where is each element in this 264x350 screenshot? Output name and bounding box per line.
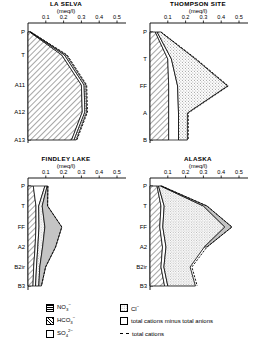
y-tick-label: B3 <box>18 283 26 289</box>
y-tick-label: A2 <box>18 244 26 250</box>
y-tick-label: T <box>143 56 147 62</box>
soil-solution-anion-figure: LA SELVA (meq/l) <box>0 0 264 350</box>
y-tick-label: A13 <box>14 137 25 143</box>
dashed-line-swatch-icon <box>120 333 129 334</box>
panel-units-alaska: (meq/l) <box>132 163 264 170</box>
y-tick-label: B3 <box>140 283 148 289</box>
legend-label-so4: SO42− <box>57 327 73 340</box>
legend-item-so4: SO42− <box>46 329 75 338</box>
legend-label-balance: total cations minus total anions <box>131 317 213 325</box>
legend-label-hco3: HCO3− <box>57 314 75 327</box>
panel-title-thompson-site: THOMPSON SITE <box>132 0 264 7</box>
chart-svg-thompson-site: 0.1 0.2 0.3 0.4 0.5 P T FF A B <box>132 0 264 155</box>
panel-title-alaska: ALASKA <box>132 155 264 162</box>
y-tick-label: A <box>143 110 147 116</box>
legend-item-balance: total cations minus total anions <box>120 316 213 325</box>
y-tick-label: A11 <box>15 82 26 88</box>
stipple-swatch-icon <box>120 304 128 312</box>
chart-svg-alaska: 0.1 0.2 0.3 0.4 0.5 P T FF A2 B2ir B3 <box>132 155 264 300</box>
area-cl <box>159 186 225 286</box>
legend-label-total-cations: total cations <box>132 330 164 338</box>
y-tick-label: T <box>21 52 25 58</box>
y-tick-label: A2 <box>140 244 148 250</box>
panel-units-la-selva: (meq/l) <box>0 8 132 15</box>
panel-title-la-selva: LA SELVA <box>0 0 132 7</box>
legend-label-no3: NO3− <box>57 301 71 314</box>
legend-right-column: Cl− total cations minus total anions tot… <box>120 303 213 343</box>
y-tick-label: FF <box>140 83 148 89</box>
legend-item-total-cations: total cations <box>120 329 213 338</box>
y-tick-label: T <box>21 203 25 209</box>
y-tick-label: B2ir <box>136 264 147 270</box>
y-tick-label: FF <box>140 224 148 230</box>
empty-swatch-icon <box>46 330 54 338</box>
horizontal-lines-swatch-icon <box>46 304 54 312</box>
y-tick-labels: P T FF A B <box>140 29 148 143</box>
legend-item-hco3: HCO3− <box>46 316 75 325</box>
panel-alaska: ALASKA (meq/l) 0.1 0. <box>132 155 264 300</box>
y-tick-label: P <box>143 29 147 35</box>
y-tick-label: B2ir <box>14 264 25 270</box>
chart-svg-la-selva: 0.1 0.2 0.3 0.4 0.5 P T A11 A12 A13 <box>0 0 132 155</box>
y-tick-label: P <box>143 183 147 189</box>
y-tick-label: T <box>143 203 147 209</box>
y-tick-labels: P T FF A2 B2ir B3 <box>14 183 25 289</box>
y-tick-label: P <box>21 183 25 189</box>
legend-item-cl: Cl− <box>120 303 213 312</box>
panel-thompson-site: THOMPSON SITE (meq/l) 0.1 <box>132 0 264 155</box>
y-tick-label: P <box>21 29 25 35</box>
legend-item-no3: NO3− <box>46 303 75 312</box>
panel-title-findley-lake: FINDLEY LAKE <box>0 155 132 162</box>
panel-units-findley-lake: (meq/l) <box>0 163 132 170</box>
panel-units-thompson-site: (meq/l) <box>132 8 264 15</box>
y-tick-labels: P T A11 A12 A13 <box>14 29 25 143</box>
diagonal-hatch-swatch-icon <box>46 317 54 325</box>
panel-findley-lake: FINDLEY LAKE (meq/l) <box>0 155 132 300</box>
empty-swatch-icon <box>120 317 128 325</box>
y-tick-labels: P T FF A2 B2ir B3 <box>136 183 147 289</box>
legend-left-column: NO3− HCO3− SO42− <box>46 303 75 343</box>
legend-label-cl: Cl− <box>131 303 139 313</box>
chart-svg-findley-lake: 0.1 0.2 0.3 0.4 0.5 P T FF A2 B2ir B3 <box>0 155 132 300</box>
y-tick-label: A12 <box>14 109 25 115</box>
panel-la-selva: LA SELVA (meq/l) <box>0 0 132 155</box>
y-tick-label: FF <box>18 224 26 230</box>
y-tick-label: B <box>143 137 147 143</box>
